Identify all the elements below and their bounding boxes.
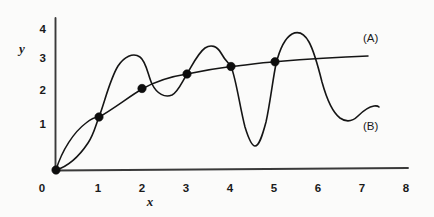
x-tick-label-5: 5 <box>271 182 278 194</box>
x-axis-line <box>55 168 408 171</box>
y-tick-label-1: 1 <box>40 118 47 130</box>
curve-a-path <box>56 56 368 170</box>
data-point-marker <box>52 166 60 174</box>
x-tick-label-2: 2 <box>139 182 145 194</box>
x-tick-label-0: 0 <box>39 182 45 194</box>
chart-screenshot: 4 3 2 1 0 1 2 3 4 5 6 7 8 y x (A) (B) <box>0 0 434 217</box>
y-tick-label-2: 2 <box>40 84 46 96</box>
data-point-marker <box>227 62 235 70</box>
x-tick-label-3: 3 <box>183 182 189 194</box>
series-label-b: (B) <box>363 120 379 132</box>
data-point-marker <box>183 70 191 78</box>
data-point-marker <box>271 58 279 66</box>
x-tick-label-1: 1 <box>95 182 102 194</box>
y-tick-label-4: 4 <box>40 23 47 35</box>
data-point-marker <box>95 113 103 121</box>
series-label-a: (A) <box>363 32 379 44</box>
curve-b-path <box>56 33 379 170</box>
data-point-marker <box>138 84 146 92</box>
y-tick-label-3: 3 <box>40 52 46 64</box>
x-tick-label-6: 6 <box>315 182 321 194</box>
x-tick-label-7: 7 <box>359 182 365 194</box>
x-axis-label: x <box>146 194 154 209</box>
x-tick-label-4: 4 <box>227 182 234 194</box>
y-axis-label: y <box>17 41 25 56</box>
chart-plot-area: 4 3 2 1 0 1 2 3 4 5 6 7 8 y x (A) (B) <box>0 0 434 217</box>
x-tick-label-8: 8 <box>403 182 410 194</box>
